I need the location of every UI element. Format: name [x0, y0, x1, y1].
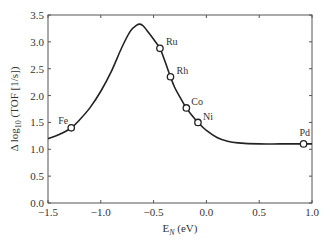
y-tick-label: 0.0	[30, 197, 44, 209]
x-tick-label: −1.0	[91, 206, 111, 218]
volcano-curve	[48, 24, 312, 144]
y-tick-label: 3.0	[30, 36, 44, 48]
data-point-rh	[167, 74, 173, 80]
y-tick-label: 1.5	[30, 116, 44, 128]
point-label-rh: Rh	[176, 65, 188, 76]
metal-points: FeRuRhCoNiPd	[58, 36, 310, 147]
x-axis-title: EN (eV)	[163, 222, 198, 237]
y-tick-label: 3.5	[30, 9, 44, 21]
x-tick-label: 0.0	[200, 206, 214, 218]
data-point-pd	[300, 141, 306, 147]
point-label-co: Co	[191, 96, 203, 107]
y-tick-label: 2.5	[30, 63, 44, 75]
point-label-pd: Pd	[300, 127, 311, 138]
data-point-fe	[68, 125, 74, 131]
plot-frame	[48, 15, 312, 203]
x-tick-label: −0.5	[144, 206, 164, 218]
y-tick-label: 0.5	[30, 170, 44, 182]
data-point-ni	[195, 119, 201, 125]
x-tick-label: 0.5	[252, 206, 266, 218]
data-point-co	[183, 105, 189, 111]
x-axis-ticks: −1.5−1.0−0.50.00.51.0	[38, 15, 319, 218]
x-tick-label: 1.0	[305, 206, 319, 218]
y-tick-label: 2.0	[30, 90, 44, 102]
point-label-ru: Ru	[166, 36, 178, 47]
y-tick-label: 1.0	[30, 143, 44, 155]
y-axis-title: Δ log10 (TOF [1/s])	[8, 66, 23, 151]
point-label-fe: Fe	[58, 115, 69, 126]
point-label-ni: Ni	[203, 111, 213, 122]
data-point-ru	[157, 45, 163, 51]
volcano-chart: −1.5−1.0−0.50.00.51.0 0.00.51.01.52.02.5…	[0, 0, 330, 247]
